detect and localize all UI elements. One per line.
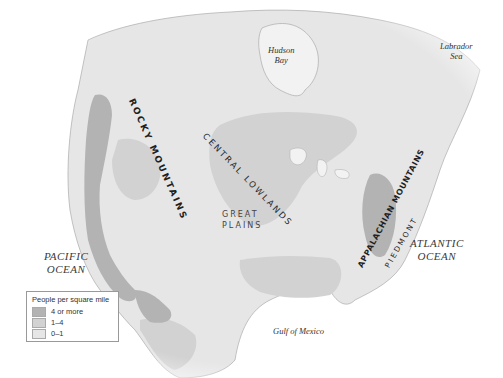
label-pacific-line1: PACIFIC: [44, 250, 88, 263]
label-pacific-line2: OCEAN: [44, 263, 88, 276]
legend-swatch-medium: [32, 318, 46, 328]
legend-label-low: 0–1: [51, 329, 64, 338]
label-atlantic-line1: ATLANTIC: [410, 237, 464, 250]
legend-swatch-low: [32, 329, 46, 339]
label-plains: PLAINS: [222, 221, 262, 232]
label-gulf-of-mexico: Gulf of Mexico: [273, 327, 324, 337]
label-labrador-sea: Labrador Sea: [440, 42, 473, 62]
legend-swatch-high: [32, 307, 46, 317]
label-atlantic-ocean: ATLANTIC OCEAN: [410, 237, 464, 262]
label-hudson-bay: Hudson Bay: [268, 46, 294, 66]
legend-label-medium: 1–4: [51, 318, 64, 327]
legend-item-low: 0–1: [32, 328, 113, 339]
label-atlantic-line2: OCEAN: [410, 250, 464, 263]
legend-item-medium: 1–4: [32, 317, 113, 328]
legend-item-high: 4 or more: [32, 306, 113, 317]
legend-title: People per square mile: [32, 295, 113, 304]
legend-label-high: 4 or more: [51, 307, 83, 316]
label-great-plains: GREAT PLAINS: [222, 210, 262, 232]
map-legend: People per square mile 4 or more 1–4 0–1: [26, 291, 119, 342]
label-labrador-line2: Sea: [440, 52, 473, 62]
label-hudson-line2: Bay: [268, 56, 294, 66]
label-great: GREAT: [222, 210, 262, 221]
label-pacific-ocean: PACIFIC OCEAN: [44, 250, 88, 275]
